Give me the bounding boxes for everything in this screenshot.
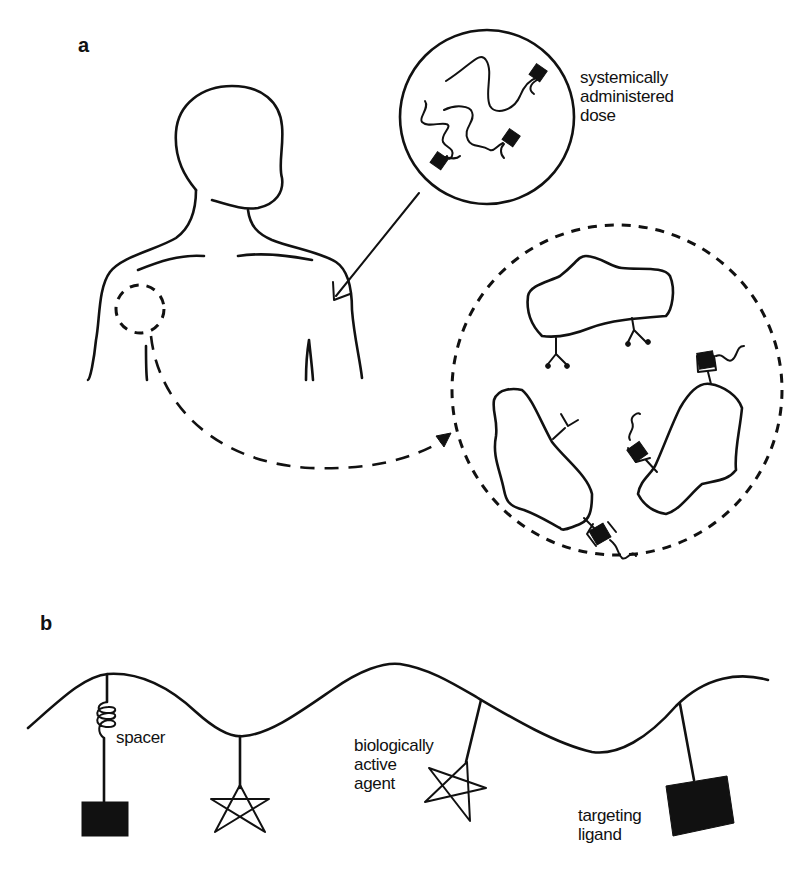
- ligand-label-line: targeting: [578, 806, 641, 825]
- dose-label-line: dose: [580, 106, 674, 125]
- targeting-ligand-square: [82, 802, 128, 836]
- spacer-label: spacer: [116, 728, 165, 747]
- panel-label-b: b: [40, 612, 52, 635]
- agent-label: biologically active agent: [354, 736, 434, 793]
- target-site-circle: [116, 285, 164, 333]
- spacer-coil: [97, 674, 115, 802]
- panel-label-a: a: [78, 34, 89, 57]
- dose-zoom-circle: [400, 30, 574, 204]
- cells-with-receptors: [494, 256, 744, 559]
- dashed-arrow: [151, 336, 451, 468]
- human-torso-outline: [88, 86, 362, 380]
- dose-label-line: systemically: [580, 68, 674, 87]
- targeting-ligand-square: [666, 704, 734, 836]
- active-agent-star: [425, 700, 486, 821]
- administration-arrow: [333, 193, 419, 300]
- dose-label: systemically administered dose: [580, 68, 674, 125]
- ligand-label-line: ligand: [578, 825, 641, 844]
- active-agent-star: [211, 736, 269, 832]
- agent-label-line: agent: [354, 774, 434, 793]
- target-zoom-dashed-circle: [452, 225, 782, 555]
- dose-label-line: administered: [580, 87, 674, 106]
- ligand-label: targeting ligand: [578, 806, 641, 844]
- agent-label-line: active: [354, 755, 434, 774]
- agent-label-line: biologically: [354, 736, 434, 755]
